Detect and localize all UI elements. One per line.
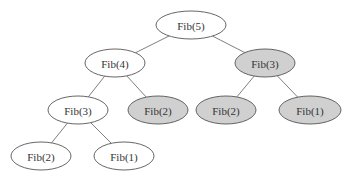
fibonacci-recursion-tree: Fib(5)Fib(4)Fib(3)Fib(3)Fib(2)Fib(2)Fib(… <box>0 0 344 181</box>
tree-node: Fib(2) <box>11 142 71 170</box>
node-label: Fib(3) <box>251 58 279 71</box>
tree-node: Fib(4) <box>85 49 145 77</box>
node-label: Fib(1) <box>296 105 324 118</box>
tree-node: Fib(3) <box>48 96 108 124</box>
tree-edge <box>135 36 169 53</box>
tree-edge <box>91 123 112 144</box>
node-label: Fib(1) <box>110 151 138 164</box>
node-label: Fib(4) <box>101 58 129 71</box>
tree-node: Fib(3) <box>235 49 295 77</box>
node-label: Fib(5) <box>177 20 205 33</box>
node-label: Fib(3) <box>64 105 92 118</box>
tree-edge <box>127 76 146 97</box>
tree-edge <box>52 123 68 143</box>
tree-edge <box>277 76 297 97</box>
tree-edge <box>88 76 104 97</box>
tree-node: Fib(1) <box>94 142 154 170</box>
tree-node: Fib(2) <box>196 96 256 124</box>
node-label: Fib(2) <box>212 105 240 118</box>
node-label: Fib(2) <box>144 105 172 118</box>
node-label: Fib(2) <box>27 151 55 164</box>
tree-edge <box>237 76 254 97</box>
tree-node: Fib(5) <box>156 11 226 39</box>
tree-node: Fib(1) <box>279 96 341 124</box>
tree-edge <box>213 36 245 53</box>
tree-node: Fib(2) <box>128 96 188 124</box>
